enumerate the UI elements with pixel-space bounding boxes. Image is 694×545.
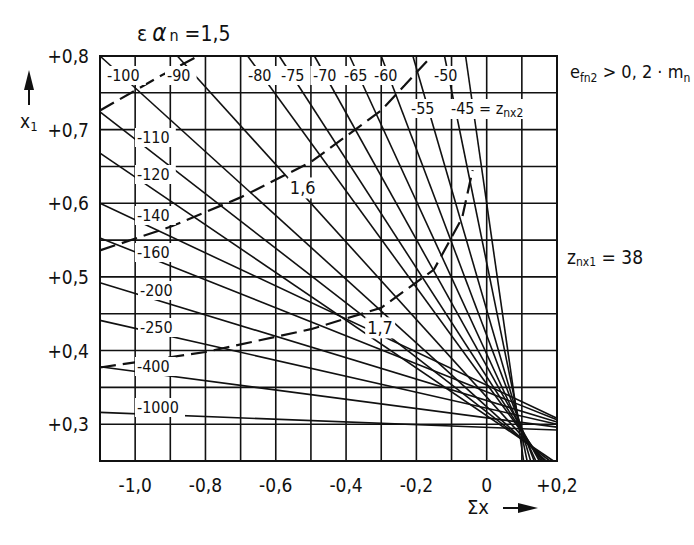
- svg-text:x1: x1: [20, 110, 38, 134]
- arrow-head-icon: [24, 70, 34, 90]
- z-nx2-value-label: -160: [137, 243, 170, 262]
- z-nx2-value-label: -55: [411, 99, 435, 118]
- y-tick-label: +0,3: [48, 413, 90, 435]
- z-nx2-value-label: -80: [248, 66, 272, 85]
- y-tick-label: +0,4: [48, 340, 90, 362]
- y-tick-label: +0,6: [48, 192, 90, 214]
- svg-text:Σx: Σx: [467, 495, 489, 519]
- x-tick-label: -0,2: [400, 474, 433, 496]
- z-nx2-value-label: -50: [434, 66, 458, 85]
- x-tick-label: -1,0: [118, 474, 151, 496]
- znx1-annotation: znx1 = 38: [567, 246, 643, 269]
- z-nx2-value-label: -100: [107, 66, 140, 85]
- y-tick-label: +0,5: [48, 266, 90, 288]
- z-nx2-value-label: -400: [137, 357, 170, 376]
- z-nx2-value-label: -90: [167, 66, 191, 85]
- dashed-curve-label-1-7: 1,7: [367, 317, 393, 338]
- arrow-head-icon: [518, 503, 538, 513]
- z-nx2-value-label: -65: [344, 66, 368, 85]
- condition-annotation: efn2 > 0, 2 · mn: [570, 61, 690, 85]
- x-tick-label: +0,2: [536, 474, 578, 496]
- y-axis-label: x1: [20, 70, 38, 134]
- z-nx2-value-label: -75: [281, 66, 305, 85]
- z-nx2-value-label: -200: [140, 281, 173, 300]
- z-nx2-value-label: -140: [137, 206, 170, 225]
- z-nx2-value-label: -70: [313, 66, 337, 85]
- x-tick-label: 0: [481, 474, 492, 496]
- x-axis-label: Σx: [467, 495, 538, 519]
- dashed-curve-label-1-6: 1,6: [290, 177, 316, 198]
- x-axis-tick-labels: -1,0-0,8-0,6-0,4-0,20+0,2: [118, 474, 577, 496]
- chart-title: εαn =1,5: [137, 19, 230, 47]
- y-tick-label: +0,7: [48, 119, 90, 141]
- z-nx2-value-label: -250: [140, 318, 173, 337]
- y-tick-label: +0,8: [48, 45, 90, 67]
- x-tick-label: -0,8: [189, 474, 222, 496]
- x-tick-label: -0,6: [259, 474, 292, 496]
- z-nx2-value-label: -60: [374, 66, 398, 85]
- y-axis-tick-labels: +0,8+0,7+0,6+0,5+0,4+0,3: [48, 45, 90, 435]
- z-nx2-value-label: -110: [137, 128, 170, 147]
- z-nx2-value-label: -120: [137, 165, 170, 184]
- z-nx2-value-label: -1000: [137, 398, 179, 417]
- x-tick-label: -0,4: [329, 474, 362, 496]
- chart-area: -1,0-0,8-0,6-0,4-0,20+0,2 +0,8+0,7+0,6+0…: [0, 0, 694, 545]
